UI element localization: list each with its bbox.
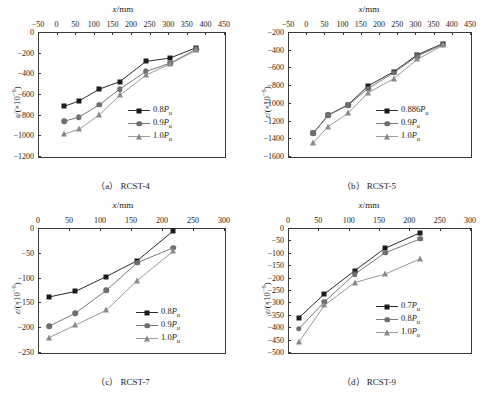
legend-item: 0.886Pu — [376, 104, 429, 117]
legend-a: 0.8Pu0.9Pu1.0Pu — [128, 104, 172, 143]
data-point-marker — [167, 60, 173, 66]
data-point-marker — [46, 334, 52, 340]
data-point-marker — [352, 279, 358, 285]
data-point-marker — [325, 123, 331, 129]
data-point-marker — [382, 271, 388, 277]
data-point-marker — [365, 89, 371, 95]
data-point-marker — [325, 113, 331, 119]
legend-item: 1.0Pu — [376, 130, 429, 143]
legend-marker-icon — [384, 121, 390, 127]
legend-item: 0.8Pu — [376, 313, 420, 326]
data-point-marker — [311, 131, 317, 137]
data-points — [0, 196, 246, 392]
data-point-marker — [143, 59, 148, 64]
legend-marker-icon — [384, 329, 390, 335]
data-point-marker — [310, 139, 316, 145]
legend-d: 0.7Pu0.8Pu1.0Pu — [376, 300, 420, 339]
legend-item: 0.9Pu — [376, 117, 429, 130]
legend-label: 1.0Pu — [161, 333, 180, 344]
legend-label: 0.8Pu — [153, 105, 172, 116]
data-point-marker — [104, 274, 109, 279]
data-point-marker — [97, 102, 103, 108]
legend-label: 1.0Pu — [401, 327, 420, 338]
legend-marker-icon — [137, 108, 142, 113]
data-point-marker — [76, 126, 82, 132]
data-point-marker — [296, 326, 302, 332]
data-point-marker — [47, 294, 52, 299]
legend-label: 0.7Pu — [401, 301, 420, 312]
legend-marker-icon — [136, 133, 142, 139]
data-point-marker — [171, 228, 176, 233]
panel-caption: （c） RCST-7 — [0, 375, 246, 388]
data-points — [246, 0, 492, 196]
legend-label: 0.9Pu — [401, 118, 420, 129]
data-point-marker — [193, 47, 199, 53]
legend-line — [136, 325, 158, 326]
legend-marker-icon — [384, 317, 390, 323]
data-point-marker — [296, 315, 301, 320]
data-point-marker — [170, 248, 176, 254]
data-point-marker — [440, 42, 446, 48]
data-point-marker — [143, 72, 149, 78]
data-point-marker — [345, 102, 351, 108]
legend-marker-icon — [385, 108, 390, 113]
data-point-marker — [414, 56, 420, 62]
data-point-marker — [76, 114, 82, 120]
data-point-marker — [62, 104, 67, 109]
legend-line — [376, 110, 398, 111]
data-points — [0, 0, 246, 196]
legend-line — [376, 332, 398, 333]
legend-item: 1.0Pu — [136, 332, 180, 345]
data-point-marker — [296, 339, 302, 345]
legend-line — [128, 123, 150, 124]
legend-label: 1.0Pu — [401, 131, 420, 142]
data-point-marker — [61, 131, 67, 137]
legend-line — [376, 306, 398, 307]
legend-marker-icon — [385, 304, 390, 309]
legend-line — [376, 319, 398, 320]
legend-marker-icon — [384, 133, 390, 139]
data-points — [246, 196, 492, 392]
panel-b: x/mmε/(×10−6)−50050100150200250300350400… — [246, 0, 492, 196]
data-point-marker — [72, 311, 78, 317]
legend-item: 1.0Pu — [128, 130, 172, 143]
legend-label: 0.9Pu — [161, 320, 180, 331]
legend-item: 1.0Pu — [376, 326, 420, 339]
data-point-marker — [97, 87, 102, 92]
legend-line — [376, 136, 398, 137]
data-point-marker — [134, 260, 140, 266]
legend-label: 0.8Pu — [401, 314, 420, 325]
legend-line — [136, 338, 158, 339]
legend-label: 0.886Pu — [401, 105, 429, 116]
panel-a: x/mmε/(×10−6)−50050100150200250300350400… — [0, 0, 246, 196]
panel-caption: （a） RCST-4 — [0, 179, 246, 192]
panel-caption: （b） RCST-5 — [246, 179, 492, 192]
data-point-marker — [321, 302, 327, 308]
legend-item: 0.9Pu — [136, 319, 180, 332]
legend-marker-icon — [144, 323, 150, 329]
data-point-marker — [418, 230, 423, 235]
data-point-marker — [117, 79, 122, 84]
data-point-marker — [417, 255, 423, 261]
data-point-marker — [322, 291, 327, 296]
legend-label: 0.8Pu — [161, 307, 180, 318]
panel-c: x/mmε/(×10−6)0501001502002503000−50−100−… — [0, 196, 246, 392]
legend-line — [128, 110, 150, 111]
legend-marker-icon — [136, 121, 142, 127]
data-point-marker — [73, 289, 78, 294]
legend-line — [376, 123, 398, 124]
panel-d: x/mmε/(×10−6)0501001502002503000−50−100−… — [246, 196, 492, 392]
legend-line — [136, 312, 158, 313]
data-point-marker — [418, 236, 424, 242]
legend-item: 0.7Pu — [376, 300, 420, 313]
legend-item: 0.8Pu — [128, 104, 172, 117]
figure-grid: x/mmε/(×10−6)−50050100150200250300350400… — [0, 0, 492, 403]
data-point-marker — [345, 110, 351, 116]
data-point-marker — [96, 111, 102, 117]
data-point-marker — [61, 119, 67, 125]
data-point-marker — [76, 99, 81, 104]
panel-caption: （d） RCST-9 — [246, 375, 492, 388]
data-point-marker — [117, 92, 123, 98]
legend-marker-icon — [145, 310, 150, 315]
data-point-marker — [103, 307, 109, 313]
